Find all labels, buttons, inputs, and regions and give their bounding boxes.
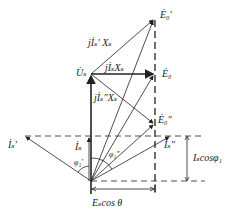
label-Is-prime: İₛ′	[8, 140, 17, 150]
label-phi1-prime: φ₁′	[74, 159, 83, 167]
Is-dprime-phasor	[91, 137, 169, 181]
phasor-diagram: Ė₀′ Ė₀ Ė₀″ U̇ₛ jİₛ′ Xₛ jİₛXₛ jİₛ″Xₛ İₛ′ …	[0, 0, 230, 217]
label-phi1-dprime: φ₁″	[109, 151, 120, 159]
label-E0-prime: Ė₀′	[160, 10, 172, 20]
label-jIsXs: jİₛXₛ	[105, 63, 124, 73]
E0-dprime-phasor	[91, 125, 153, 181]
phasor-svg	[0, 0, 230, 217]
label-jIs-dprime-Xs: jİₛ″Xₛ	[94, 93, 117, 103]
label-Is-cos-phi: Iₛcosφ₁	[193, 153, 222, 163]
label-Es-cos-theta: Eₛcos θ	[92, 198, 122, 208]
label-E0-dprime: Ė₀″	[158, 115, 172, 125]
label-Is-dprime: İₛ″	[164, 140, 175, 150]
label-jIs-prime-Xs: jİₛ′ Xₛ	[88, 38, 112, 48]
label-Us: U̇ₛ	[76, 68, 87, 78]
label-E0: Ė₀	[162, 69, 172, 79]
label-Is: İₛ	[75, 142, 82, 152]
